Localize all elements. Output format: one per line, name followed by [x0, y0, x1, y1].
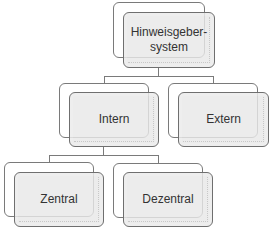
connector-intern-down — [103, 146, 104, 155]
node-box: Zentral — [14, 172, 104, 227]
connector-level2-horizontal — [49, 155, 159, 156]
node-box: Extern — [178, 92, 269, 147]
node-box: Intern — [69, 92, 159, 147]
node-label: Dezentral — [142, 192, 193, 207]
node-box: Dezentral — [123, 172, 213, 227]
connector-to-dezentral — [158, 155, 159, 163]
node-box: Hinweisgeber- system — [123, 12, 215, 68]
connector-level1-horizontal — [104, 76, 214, 77]
node-label: Hinweisgeber- system — [131, 25, 208, 55]
node-label: Intern — [99, 112, 130, 127]
node-label: Extern — [206, 112, 241, 127]
node-label: Zentral — [40, 192, 77, 207]
connector-root-down — [158, 67, 159, 76]
